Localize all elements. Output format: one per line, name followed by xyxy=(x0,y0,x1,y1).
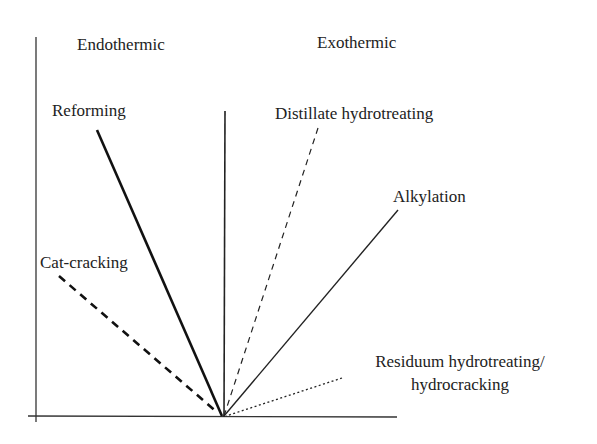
reforming-label: Reforming xyxy=(52,101,126,121)
exothermic-label: Exothermic xyxy=(317,33,396,53)
center-divider xyxy=(224,111,225,417)
alkylation-label: Alkylation xyxy=(393,187,466,207)
cat-cracking-line xyxy=(59,276,218,413)
x-axis xyxy=(28,416,397,417)
reforming-line xyxy=(97,130,222,416)
residuum-label-line2: hydrocracking xyxy=(350,375,570,395)
residuum-hydrotreating-label: Residuum hydrotreating/ hydrocracking xyxy=(350,352,570,395)
distillate-hydrotreating-line xyxy=(224,128,318,416)
residuum-label-line1: Residuum hydrotreating/ xyxy=(350,352,570,372)
residuum-hydrotreating-line xyxy=(226,378,342,416)
endothermic-label: Endothermic xyxy=(77,35,165,55)
distillate-hydrotreating-label: Distillate hydrotreating xyxy=(275,104,433,124)
cat-cracking-label: Cat-cracking xyxy=(40,253,128,273)
